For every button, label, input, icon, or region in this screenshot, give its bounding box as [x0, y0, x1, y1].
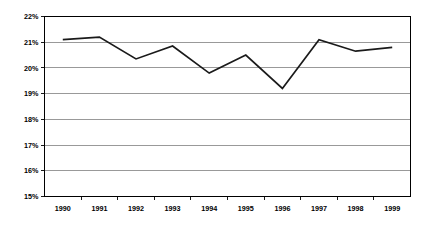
x-axis-label: 1993	[165, 204, 181, 213]
line-chart: 15%16%17%18%19%20%21%22% 199019911992199…	[0, 0, 447, 227]
y-axis-label: 22%	[24, 12, 39, 21]
y-axis-label: 18%	[24, 115, 39, 124]
y-axis-label: 19%	[24, 89, 39, 98]
x-axis-label: 1998	[348, 204, 364, 213]
x-axis-label: 1997	[311, 204, 327, 213]
chart-canvas: 15%16%17%18%19%20%21%22% 199019911992199…	[0, 0, 447, 227]
y-axis-label: 16%	[24, 166, 39, 175]
y-axis-label: 21%	[24, 38, 39, 47]
y-axis-label: 17%	[24, 141, 39, 150]
y-axis-label: 20%	[24, 64, 39, 73]
data-series-line	[63, 37, 392, 88]
gridlines	[45, 42, 411, 171]
plot-area-border	[45, 17, 411, 197]
x-axis-label: 1995	[238, 204, 254, 213]
x-axis-label: 1996	[274, 204, 290, 213]
x-axis-label: 1994	[201, 204, 217, 213]
x-axis-label: 1999	[384, 204, 400, 213]
x-axis-label: 1990	[55, 204, 71, 213]
x-axis-label: 1992	[128, 204, 144, 213]
y-axis-tick-labels: 15%16%17%18%19%20%21%22%	[24, 12, 39, 201]
x-axis-tick-labels: 1990199119921993199419951996199719981999	[55, 204, 400, 213]
x-axis-label: 1991	[91, 204, 107, 213]
y-axis-label: 15%	[24, 192, 39, 201]
